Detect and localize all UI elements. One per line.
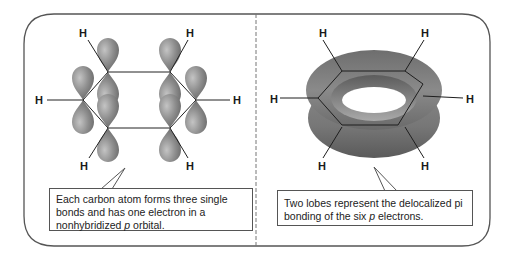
callout-pointer-left (101, 168, 125, 189)
svg-text:H: H (186, 27, 194, 39)
p-orbital-diagram: H H H H H H (35, 27, 241, 172)
svg-text:H: H (421, 27, 429, 39)
svg-text:H: H (233, 94, 241, 106)
text-segment: nonhybridized (56, 219, 124, 231)
svg-text:H: H (466, 93, 474, 105)
callout-left-line3: nonhybridized p orbital. (56, 219, 246, 232)
orbital-lobes (72, 38, 207, 162)
svg-text:H: H (79, 27, 87, 39)
svg-text:H: H (35, 94, 43, 106)
svg-text:H: H (80, 160, 88, 172)
callout-right-line1: Two lobes represent the delocalized pi (284, 197, 466, 210)
callout-left-line1: Each carbon atom forms three single (56, 193, 246, 206)
pi-cloud-diagram: H H H H H H (270, 27, 474, 172)
svg-text:H: H (318, 160, 326, 172)
callout-left: Each carbon atom forms three single bond… (49, 188, 253, 231)
callout-right-line2: bonding of the six p electrons. (284, 210, 466, 223)
callout-pointer-right (374, 167, 397, 191)
svg-text:H: H (270, 93, 278, 105)
svg-text:H: H (186, 160, 194, 172)
ch-bonds (47, 40, 230, 158)
text-segment: bonding of the six (284, 210, 369, 222)
svg-text:H: H (319, 27, 327, 39)
callout-left-line2: bonds and has one electron in a (56, 206, 246, 219)
top-lobe (306, 50, 442, 130)
text-segment: orbital. (130, 219, 164, 231)
callout-right: Two lobes represent the delocalized pi b… (277, 190, 473, 226)
svg-text:H: H (421, 160, 429, 172)
text-segment: electrons. (375, 210, 423, 222)
